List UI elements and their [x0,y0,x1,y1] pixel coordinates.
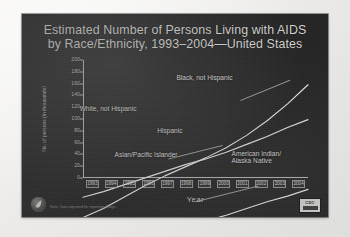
x-axis-tick-text: 2001 [236,180,249,188]
series-label-black: Black, not Hispanic [176,74,232,82]
x-axis-tick-label: 1995 [121,179,140,189]
x-axis-tick-text: 2000 [217,180,230,188]
x-axis-tick-label: 2000 [214,179,233,189]
x-axis-tick-text: 2002 [255,180,268,188]
y-axis-title: No. of persons (in thousands) [42,86,47,152]
cdc-badge-bar [303,206,318,210]
series-label-ai-an-text: Alaska Native [232,157,281,165]
x-axis-tick-label: 1996 [139,179,158,189]
cdc-logo-badge: CDC [300,199,320,212]
line-chart: No. of persons (in thousands) 0204060801… [38,54,316,204]
y-axis-title-wrap: No. of persons (in thousands) [46,60,56,178]
series-label-ai-an: American Indian/Alaska Native [232,150,281,165]
x-axis-tick-label: 2002 [252,179,271,189]
x-axis-tick-label: 1998 [177,179,196,189]
x-axis-tick-label: 1997 [158,179,177,189]
cdc-badge-text: CDC [305,201,315,205]
scanned-page: Estimated Number of Persons Living with … [0,0,350,237]
x-axis-tick-text: 2004 [292,180,305,188]
x-axis-tick-text: 1996 [142,180,155,188]
slide-title-line-1: Estimated Number of Persons Living with … [22,23,328,37]
x-axis-tick-text: 1993 [86,180,99,188]
x-axis-tick-text: 1999 [198,180,211,188]
x-axis-tick-label: 2004 [289,179,308,189]
x-axis-tick-label: 2001 [233,179,252,189]
slide-title: Estimated Number of Persons Living with … [22,23,328,51]
series-label-white-text: White, not Hispanic [80,105,137,113]
series-label-asian-text: Asian/Pacific Islander [115,151,178,159]
x-axis-ticks: 1993199419951996199719981999200020012002… [83,179,308,189]
hhs-eagle-logo [31,197,46,212]
x-axis-tick-text: 1995 [123,180,136,188]
series-label-asian: Asian/Pacific Islander [115,151,178,159]
x-axis-tick-label: 1994 [102,179,121,189]
x-axis-tick-text: 1994 [105,180,118,188]
slide-title-line-2: by Race/Ethnicity, 1993–2004—United Stat… [22,37,328,51]
x-axis-tick-label: 1993 [83,179,102,189]
footnote: Note: Data adjusted for reporting delays… [50,205,117,210]
series-label-white: White, not Hispanic [80,105,137,113]
slide-footer: Note: Data adjusted for reporting delays… [22,191,328,217]
series-label-hispanic-text: Hispanic [157,127,182,135]
x-axis-tick-label: 1999 [196,179,215,189]
x-axis-tick-text: 1998 [180,180,193,188]
x-axis-tick-label: 2003 [271,179,290,189]
series-label-black-text: Black, not Hispanic [176,74,232,82]
series-label-hispanic: Hispanic [157,127,182,135]
plot-area: 020406080100120140160180200 Black, not H… [83,60,308,178]
x-axis-tick-text: 1997 [161,180,174,188]
x-axis-tick-text: 2003 [273,180,286,188]
presentation-slide: Estimated Number of Persons Living with … [22,14,328,217]
label-leader-line [241,80,291,100]
